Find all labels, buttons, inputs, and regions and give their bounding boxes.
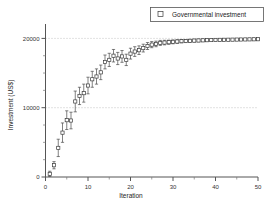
data-marker: [120, 55, 123, 58]
data-marker: [116, 57, 119, 60]
y-tick-label: 0: [36, 174, 40, 180]
data-marker: [142, 46, 145, 49]
data-marker: [95, 75, 98, 78]
data-marker: [82, 92, 85, 95]
data-marker: [201, 39, 204, 42]
data-markers-group: [48, 38, 259, 176]
data-marker: [137, 49, 140, 52]
x-tick-label: 40: [212, 184, 219, 190]
data-marker: [210, 38, 213, 41]
data-marker: [103, 60, 106, 63]
data-marker: [244, 38, 247, 41]
gridlines-group: [46, 38, 259, 107]
data-marker: [167, 41, 170, 44]
data-marker: [69, 119, 72, 122]
data-marker: [239, 38, 242, 41]
scatter-plot-svg: 0102030405001000020000 Investment (US$) …: [0, 0, 267, 212]
chart-container: 0102030405001000020000 Investment (US$) …: [0, 0, 267, 212]
legend[interactable]: Governmental investment: [151, 8, 264, 22]
data-marker: [146, 44, 149, 47]
data-marker: [86, 84, 89, 87]
data-marker: [159, 41, 162, 44]
data-marker: [61, 131, 64, 134]
x-tick-label: 0: [44, 184, 48, 190]
x-tick-label: 10: [85, 184, 92, 190]
data-marker: [227, 38, 230, 41]
data-marker: [193, 39, 196, 42]
data-marker: [235, 38, 238, 41]
data-marker: [112, 54, 115, 57]
legend-marker-open-square: [158, 12, 163, 17]
data-marker: [91, 78, 94, 81]
data-marker: [150, 43, 153, 46]
data-marker: [57, 146, 60, 149]
y-axis-title: Investment (US$): [7, 80, 15, 131]
data-marker: [231, 38, 234, 41]
data-marker: [184, 39, 187, 42]
data-marker: [218, 38, 221, 41]
data-marker: [74, 100, 77, 103]
data-marker: [171, 40, 174, 43]
data-marker: [48, 172, 51, 175]
ticks-group: [42, 38, 259, 181]
data-marker: [197, 39, 200, 42]
legend-label: Governmental investment: [172, 11, 246, 18]
data-marker: [78, 94, 81, 97]
y-tick-label: 10000: [23, 105, 40, 111]
data-marker: [180, 40, 183, 43]
data-marker: [163, 41, 166, 44]
data-marker: [52, 164, 55, 167]
data-marker: [129, 52, 132, 55]
data-marker: [133, 50, 136, 53]
data-marker: [176, 40, 179, 43]
data-marker: [252, 38, 255, 41]
data-marker: [205, 39, 208, 42]
tick-labels-group: 0102030405001000020000: [23, 36, 262, 190]
x-tick-label: 50: [255, 184, 262, 190]
data-marker: [248, 38, 251, 41]
x-tick-label: 20: [127, 184, 134, 190]
data-marker: [108, 58, 111, 61]
data-marker: [125, 58, 128, 61]
data-marker: [256, 38, 259, 41]
data-marker: [188, 39, 191, 42]
y-tick-label: 20000: [23, 36, 40, 42]
x-tick-label: 30: [170, 184, 177, 190]
data-marker: [222, 38, 225, 41]
x-axis-title: Iteration: [119, 192, 143, 199]
data-marker: [99, 71, 102, 74]
data-marker: [65, 119, 68, 122]
data-marker: [214, 38, 217, 41]
data-marker: [154, 42, 157, 45]
